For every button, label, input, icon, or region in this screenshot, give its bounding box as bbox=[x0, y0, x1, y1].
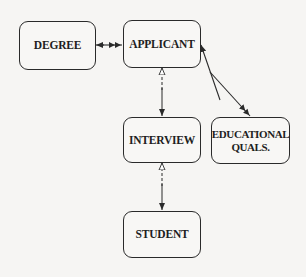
diagram-canvas: DEGREE APPLICANT INTERVIEW EDUCATIONAL Q… bbox=[0, 0, 306, 277]
node-degree-label: DEGREE bbox=[34, 39, 81, 52]
node-applicant-label: APPLICANT bbox=[129, 38, 194, 51]
node-student: STUDENT bbox=[123, 211, 201, 258]
node-student-label: STUDENT bbox=[136, 228, 189, 241]
node-interview: INTERVIEW bbox=[123, 117, 201, 163]
node-educational-quals-label-line2: QUALS. bbox=[231, 141, 269, 154]
node-educational-quals: EDUCATIONAL QUALS. bbox=[211, 117, 290, 164]
node-educational-quals-label-line1: EDUCATIONAL bbox=[212, 128, 289, 141]
node-degree: DEGREE bbox=[19, 21, 96, 70]
node-interview-label: INTERVIEW bbox=[129, 134, 195, 147]
node-applicant: APPLICANT bbox=[123, 20, 201, 68]
